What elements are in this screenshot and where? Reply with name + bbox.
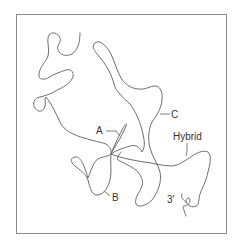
heteroduplex-diagram: A B C Hybrid 3′ — [0, 0, 238, 249]
label-b: B — [112, 192, 119, 203]
leader-a — [106, 131, 120, 136]
leader-hybrid — [186, 143, 187, 156]
leader-b — [104, 191, 110, 196]
loop-c — [93, 42, 162, 206]
label-three-prime: 3′ — [167, 194, 175, 205]
label-c: C — [171, 109, 178, 120]
label-hybrid: Hybrid — [173, 131, 202, 142]
label-a: A — [96, 125, 103, 136]
loop-b — [71, 154, 111, 195]
